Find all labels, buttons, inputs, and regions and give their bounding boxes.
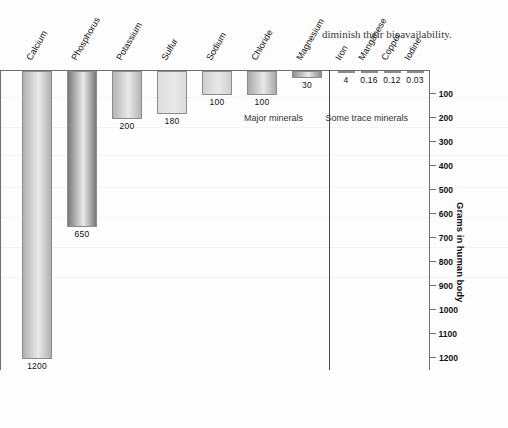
y-axis-tick [430,333,436,334]
bar-chloride[interactable] [247,71,277,95]
bar-manganese[interactable] [361,71,378,73]
group-label-major: Major minerals [244,113,303,123]
y-axis-tick-label: 200 [439,113,453,123]
bar-sodium[interactable] [202,71,232,95]
bar-phosphorus[interactable] [67,71,97,227]
bar-value-chloride: 100 [255,97,270,107]
bar-label-potassium: Potassium [114,21,144,62]
y-axis-tick [430,357,436,358]
y-axis-tick [430,285,436,286]
y-axis-tick-label: 100 [439,89,453,99]
y-axis-tick [430,261,436,262]
rotated-figure-canvas: Grams in human body 10020030040050060070… [0,0,508,428]
y-axis-tick-label: 700 [439,233,453,243]
bar-calcium[interactable] [22,71,52,359]
bar-label-iron: Iron [334,44,350,62]
y-axis-tick-label: 900 [439,281,453,291]
bar-iron[interactable] [338,71,355,73]
y-axis-tick [430,189,436,190]
y-axis-tick-label: 1100 [439,329,457,339]
bar-value-iron: 4 [344,75,349,85]
y-axis-tick [430,141,436,142]
y-axis-tick-label: 1200 [439,353,458,363]
group-label-trace: Some trace minerals [325,113,408,123]
y-axis: Grams in human body 10020030040050060070… [430,70,470,370]
bar-label-chloride: Chloride [249,28,274,62]
y-axis-tick-label: 300 [439,137,453,147]
bar-iodine[interactable] [407,71,424,73]
bar-magnesium[interactable] [292,71,322,78]
bar-label-sodium: Sodium [204,31,228,62]
page-body-text: diminish their bioavailability. [322,28,452,40]
y-axis-title: Grams in human body [455,202,466,302]
y-axis-tick [430,165,436,166]
mineral-bar-chart: Grams in human body 10020030040050060070… [0,0,508,428]
bar-value-manganese: 0.16 [361,75,378,85]
bar-label-phosphorus: Phosphorus [69,15,102,62]
y-axis-tick-label: 500 [439,185,453,195]
bar-label-sulfur: Sulfur [159,37,179,62]
bar-value-iodine: 0.03 [407,75,424,85]
bar-sulfur[interactable] [157,71,187,114]
y-axis-tick [430,117,436,118]
bar-potassium[interactable] [112,71,142,119]
bar-value-potassium: 200 [120,121,135,131]
bar-label-calcium: Calcium [24,29,49,62]
bar-copper[interactable] [384,71,401,73]
bar-value-sodium: 100 [210,97,225,107]
y-axis-tick-label: 600 [439,209,453,219]
axis-line-left [429,70,430,370]
y-axis-tick-label: 400 [439,161,453,171]
bar-value-calcium: 1200 [27,361,47,371]
bar-value-magnesium: 30 [302,80,312,90]
y-axis-tick-label: 800 [439,257,453,267]
y-axis-tick [430,237,436,238]
y-axis-tick-label: 1000 [439,305,458,315]
bar-value-copper: 0.12 [384,75,401,85]
bar-value-sulfur: 180 [165,116,180,126]
y-axis-tick [430,93,436,94]
y-axis-tick [430,309,436,310]
y-axis-tick [430,213,436,214]
axis-line-right [0,70,1,370]
bar-value-phosphorus: 650 [75,229,90,239]
